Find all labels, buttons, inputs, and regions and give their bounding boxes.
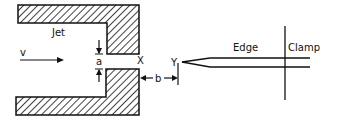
gap-label: a	[96, 56, 102, 67]
edge-blade	[182, 58, 310, 67]
edge-tip-label: Y	[170, 57, 178, 68]
clamp-label: Clamp	[288, 42, 320, 53]
nozzle-exit-label: X	[137, 55, 144, 66]
jet-label: Jet	[51, 27, 65, 38]
edge-label: Edge	[233, 42, 258, 53]
velocity-label: v	[20, 47, 26, 58]
nozzle-bottom-wall	[16, 69, 139, 115]
distance-label: b	[155, 73, 161, 84]
velocity-arrow	[20, 57, 64, 63]
nozzle-top-wall	[18, 5, 139, 54]
edge-tone-diagram: Jet v a X b Y Edge Clamp	[0, 0, 338, 124]
